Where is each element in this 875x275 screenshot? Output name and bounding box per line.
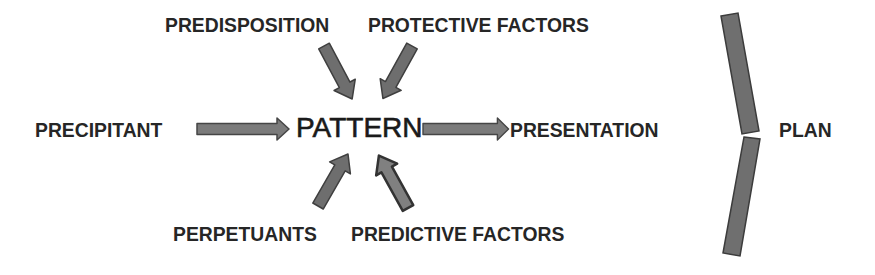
label-presentation: PRESENTATION	[510, 119, 658, 140]
label-predisposition: PREDISPOSITION	[165, 14, 329, 35]
arrow-pattern-to-presentation	[423, 118, 509, 140]
bracket-to-plan	[721, 13, 760, 256]
label-protective-factors: PROTECTIVE FACTORS	[368, 14, 589, 35]
arrow-perpetuants-to-pattern	[308, 148, 359, 212]
label-plan: PLAN	[779, 119, 832, 140]
arrow-precipitant-to-pattern	[197, 118, 289, 140]
bracket-bottom-bar	[723, 137, 760, 256]
label-predictive-factors: PREDICTIVE FACTORS	[351, 223, 564, 244]
label-precipitant: PRECIPITANT	[35, 119, 162, 140]
arrow-predictive-factors-to-pattern	[368, 150, 418, 214]
label-perpetuants: PERPETUANTS	[173, 223, 317, 244]
label-pattern: PATTERN	[296, 114, 423, 142]
bracket-top-bar	[721, 13, 759, 134]
arrow-protective-factors-to-pattern	[372, 40, 422, 104]
formulation-diagram: PREDISPOSITION PROTECTIVE FACTORS PRECIP…	[0, 0, 875, 275]
arrow-predisposition-to-pattern	[313, 40, 362, 104]
